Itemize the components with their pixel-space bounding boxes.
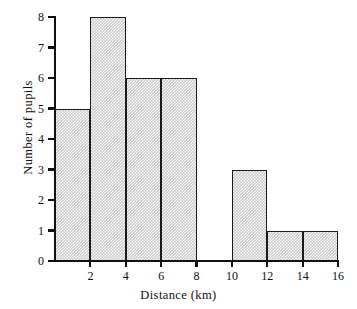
y-tick-mark [48,16,55,18]
x-tick-label: 2 [87,270,93,282]
y-tick-label: 1 [0,225,44,237]
y-tick-mark [48,46,55,48]
x-tick-label: 16 [332,270,344,282]
x-tick-mark [160,260,162,267]
x-tick-label: 12 [261,270,273,282]
plot-area [55,17,338,261]
histogram-bar [303,231,338,262]
y-tick-label: 8 [0,11,44,23]
histogram-bar [232,170,267,262]
x-tick-label: 6 [158,270,164,282]
y-tick-mark [48,138,55,140]
x-tick-mark [195,260,197,267]
y-tick-mark [48,199,55,201]
histogram-bar [267,231,302,262]
x-tick-mark [89,260,91,267]
x-tick-label: 4 [123,270,129,282]
y-tick-mark [48,260,55,262]
y-tick-label: 0 [0,255,44,267]
x-tick-mark [337,260,339,267]
x-tick-label: 14 [297,270,309,282]
y-axis-title: Number of pupils [21,48,36,208]
y-tick-mark [48,77,55,79]
y-tick-mark [48,107,55,109]
histogram-bar [90,17,125,261]
histogram-chart: 246810121416 012345678 Distance (km) Num… [0,0,357,309]
y-tick-mark [48,168,55,170]
histogram-bar [161,78,196,261]
histogram-bar [126,78,161,261]
x-tick-label: 8 [194,270,200,282]
histogram-bar [55,109,90,262]
x-tick-mark [231,260,233,267]
x-tick-mark [302,260,304,267]
x-axis-title: Distance (km) [0,288,357,303]
x-tick-mark [125,260,127,267]
y-tick-mark [48,229,55,231]
x-tick-mark [266,260,268,267]
x-tick-label: 10 [226,270,238,282]
